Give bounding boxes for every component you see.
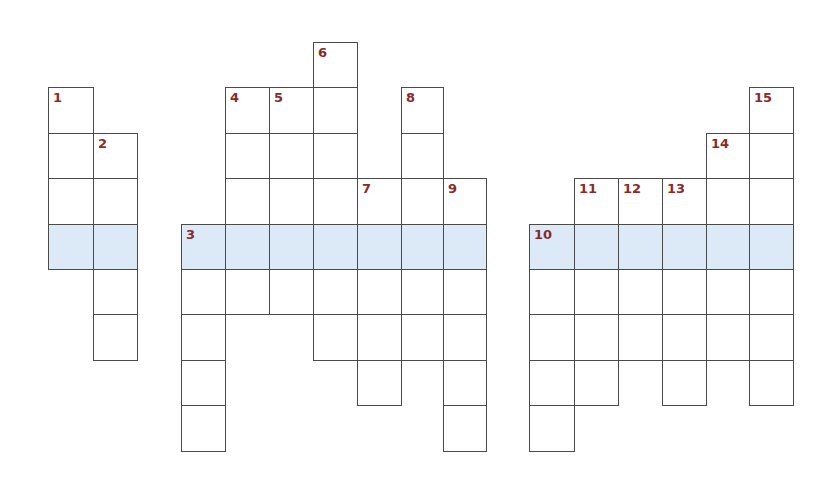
crossword-cell-1[interactable]: 1 <box>48 87 94 134</box>
crossword-cell[interactable] <box>225 224 270 270</box>
clue-number: 8 <box>406 91 415 104</box>
clue-number: 5 <box>274 91 283 104</box>
crossword-cell[interactable] <box>225 178 270 225</box>
crossword-cell-10[interactable]: 10 <box>529 224 575 270</box>
crossword-cell[interactable] <box>313 269 358 315</box>
crossword-cell-13[interactable]: 13 <box>662 178 707 225</box>
crossword-cell[interactable] <box>401 269 444 315</box>
crossword-cell[interactable] <box>749 314 794 361</box>
clue-number: 3 <box>186 228 195 241</box>
crossword-cell[interactable] <box>48 178 94 225</box>
crossword-cell[interactable] <box>662 224 707 270</box>
crossword-cell[interactable] <box>618 224 663 270</box>
crossword-cell[interactable] <box>313 133 358 179</box>
clue-number: 13 <box>667 182 685 195</box>
crossword-cell[interactable] <box>357 314 402 361</box>
crossword-cell[interactable] <box>529 360 575 406</box>
clue-number: 4 <box>230 91 239 104</box>
crossword-cell[interactable] <box>662 269 707 315</box>
crossword-cell[interactable] <box>93 224 138 270</box>
crossword-cell[interactable] <box>706 314 750 361</box>
crossword-cell-15[interactable]: 15 <box>749 87 794 134</box>
crossword-cell[interactable] <box>443 405 487 452</box>
crossword-cell-8[interactable]: 8 <box>401 87 444 134</box>
crossword-cell[interactable] <box>443 360 487 406</box>
clue-number: 11 <box>579 182 597 195</box>
clue-number: 2 <box>98 137 107 150</box>
crossword-cell-14[interactable]: 14 <box>706 133 750 179</box>
crossword-cell[interactable] <box>93 178 138 225</box>
crossword-cell[interactable] <box>181 269 226 315</box>
crossword-cell[interactable] <box>706 178 750 225</box>
crossword-cell[interactable] <box>618 269 663 315</box>
crossword-cell[interactable] <box>48 224 94 270</box>
clue-number: 14 <box>711 137 729 150</box>
crossword-cell-7[interactable]: 7 <box>357 178 402 225</box>
crossword-cell[interactable] <box>48 133 94 179</box>
crossword-cell[interactable] <box>401 314 444 361</box>
crossword-cell[interactable] <box>313 224 358 270</box>
crossword-cell[interactable] <box>618 314 663 361</box>
crossword-cell[interactable] <box>357 360 402 406</box>
crossword-cell[interactable] <box>443 224 487 270</box>
crossword-cell[interactable] <box>93 314 138 361</box>
crossword-cell[interactable] <box>749 224 794 270</box>
crossword-cell-3[interactable]: 3 <box>181 224 226 270</box>
crossword-cell[interactable] <box>574 269 619 315</box>
crossword-cell[interactable] <box>313 178 358 225</box>
crossword-puzzle: 126458793151411121310 <box>0 0 837 484</box>
crossword-cell[interactable] <box>313 314 358 361</box>
crossword-cell-4[interactable]: 4 <box>225 87 270 134</box>
crossword-cell[interactable] <box>749 269 794 315</box>
crossword-cell[interactable] <box>269 178 314 225</box>
crossword-cell[interactable] <box>401 224 444 270</box>
crossword-cell-6[interactable]: 6 <box>313 42 358 88</box>
crossword-cell[interactable] <box>443 314 487 361</box>
crossword-cell[interactable] <box>574 224 619 270</box>
clue-number: 12 <box>623 182 641 195</box>
crossword-cell[interactable] <box>401 133 444 179</box>
clue-number: 1 <box>53 91 62 104</box>
crossword-cell[interactable] <box>529 269 575 315</box>
crossword-cell-5[interactable]: 5 <box>269 87 314 134</box>
crossword-cell[interactable] <box>269 269 314 315</box>
crossword-cell[interactable] <box>401 178 444 225</box>
crossword-cell[interactable] <box>357 224 402 270</box>
crossword-cell-11[interactable]: 11 <box>574 178 619 225</box>
crossword-cell[interactable] <box>574 360 619 406</box>
clue-number: 10 <box>534 228 552 241</box>
crossword-cell[interactable] <box>225 133 270 179</box>
clue-number: 15 <box>754 91 772 104</box>
crossword-cell[interactable] <box>181 360 226 406</box>
clue-number: 6 <box>318 46 327 59</box>
crossword-cell[interactable] <box>706 224 750 270</box>
crossword-cell[interactable] <box>662 314 707 361</box>
crossword-cell[interactable] <box>269 133 314 179</box>
crossword-cell-2[interactable]: 2 <box>93 133 138 179</box>
crossword-cell[interactable] <box>181 405 226 452</box>
crossword-cell[interactable] <box>749 133 794 179</box>
crossword-cell[interactable] <box>181 314 226 361</box>
crossword-cell[interactable] <box>749 178 794 225</box>
crossword-cell-12[interactable]: 12 <box>618 178 663 225</box>
crossword-cell[interactable] <box>313 87 358 134</box>
clue-number: 7 <box>362 182 371 195</box>
crossword-cell[interactable] <box>443 269 487 315</box>
crossword-cell[interactable] <box>574 314 619 361</box>
crossword-cell[interactable] <box>749 360 794 406</box>
crossword-cell[interactable] <box>529 405 575 452</box>
crossword-cell[interactable] <box>357 269 402 315</box>
crossword-cell[interactable] <box>706 269 750 315</box>
crossword-cell[interactable] <box>662 360 707 406</box>
crossword-cell[interactable] <box>225 269 270 315</box>
crossword-cell[interactable] <box>93 269 138 315</box>
crossword-cell[interactable] <box>269 224 314 270</box>
clue-number: 9 <box>448 182 457 195</box>
crossword-cell[interactable] <box>529 314 575 361</box>
crossword-cell-9[interactable]: 9 <box>443 178 487 225</box>
